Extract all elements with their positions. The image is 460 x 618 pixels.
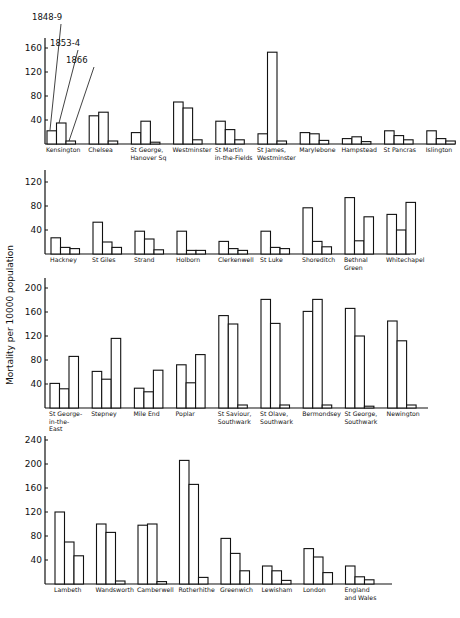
category-label: St Luke [260, 256, 283, 263]
category-label: and Wales [345, 594, 377, 601]
category-label: Southwark [344, 418, 377, 425]
bar-1853-4 [103, 242, 113, 254]
category-label: Mile End [133, 410, 159, 417]
category-label: Southwark [218, 418, 251, 425]
chart-panel-3: 4080120160200St George-in-the-EastStepne… [25, 278, 428, 432]
bar-group: Wandsworth [96, 524, 134, 593]
category-label: East [49, 425, 63, 432]
bar-group: Mile End [133, 370, 163, 417]
category-label: Rotherhithe [179, 586, 215, 593]
y-tick-label: 160 [25, 483, 42, 493]
y-tick-label: 160 [25, 307, 42, 317]
category-label: in-the- [49, 418, 69, 425]
bar-group: London [303, 549, 333, 593]
bar-1853-4 [141, 121, 151, 144]
bar-group: Chelsea [88, 112, 118, 153]
bar-1848-9 [134, 388, 144, 408]
bar-1866 [196, 355, 206, 408]
bar-1853-4 [310, 134, 320, 144]
bar-1848-9 [261, 231, 271, 254]
bar-1848-9 [258, 134, 268, 144]
bar-1866 [70, 249, 80, 254]
bar-1866 [196, 250, 206, 254]
y-tick-label: 160 [25, 43, 42, 53]
bar-1866 [157, 582, 167, 584]
bar-1853-4 [355, 241, 365, 254]
bar-1848-9 [216, 121, 226, 144]
bar-1848-9 [180, 460, 190, 584]
bar-1853-4 [183, 108, 193, 144]
bar-1853-4 [145, 239, 155, 254]
bar-group: Westminster [173, 102, 212, 153]
y-tick-label: 40 [31, 379, 43, 389]
bar-1853-4 [187, 250, 197, 254]
bar-1853-4 [271, 247, 281, 254]
category-label: Camberwell [137, 586, 174, 593]
bar-1853-4 [272, 571, 282, 584]
category-label: Westminster [173, 146, 212, 153]
bar-1866 [280, 405, 290, 408]
bar-1866 [150, 142, 160, 144]
chart-panel-2: 4080120HackneySt GilesStrandHolbornClerk… [25, 170, 425, 271]
bar-1853-4 [355, 336, 365, 408]
legend-label-1866: 1866 [66, 55, 88, 65]
bar-group: St Pancras [384, 131, 416, 153]
bar-1866 [235, 140, 245, 144]
y-tick-label: 80 [31, 531, 43, 541]
category-label: St Giles [92, 256, 116, 263]
category-label: Bethnal [344, 256, 368, 263]
bar-1853-4 [189, 484, 199, 584]
category-label: Hackney [50, 256, 77, 264]
bar-1853-4 [102, 379, 112, 408]
bar-group: St Luke [260, 231, 290, 263]
bar-1866 [407, 405, 417, 408]
bar-1853-4 [106, 532, 116, 584]
bar-1853-4 [436, 139, 446, 144]
bar-1848-9 [261, 299, 271, 408]
category-label: Bermondsey [302, 410, 341, 418]
bar-1853-4 [394, 136, 404, 144]
y-tick-label: 40 [31, 115, 43, 125]
bar-1848-9 [345, 308, 355, 408]
bar-1853-4 [144, 392, 154, 408]
bar-group: Lambeth [54, 512, 84, 593]
bar-group: Stepney [91, 338, 121, 418]
category-label: Stepney [91, 410, 117, 418]
bar-group: St George-in-the-East [49, 356, 82, 432]
bar-1848-9 [55, 512, 65, 584]
bar-group: St Saviour,Southwark [218, 316, 252, 425]
bar-1848-9 [219, 316, 229, 408]
category-label: Hampstead [341, 146, 377, 154]
bar-1848-9 [388, 321, 398, 408]
category-label: St Saviour, [218, 410, 252, 417]
bar-group: Holborn [176, 231, 206, 263]
category-label: Poplar [176, 410, 196, 418]
bar-group: St Martinin-the-Fields [215, 121, 253, 160]
bar-1866 [66, 141, 76, 144]
bar-1866 [199, 577, 209, 584]
y-tick-label: 80 [31, 201, 43, 211]
bar-1866 [282, 580, 292, 584]
bar-group: BethnalGreen [344, 198, 374, 271]
bar-1853-4 [225, 130, 235, 144]
category-label: Kensington [46, 146, 80, 154]
bar-group: Strand [134, 231, 164, 263]
category-label: Lambeth [54, 586, 81, 593]
bar-1848-9 [177, 231, 187, 254]
bar-1866 [361, 142, 371, 144]
bar-1866 [404, 140, 414, 144]
bar-1848-9 [89, 116, 99, 144]
bar-1848-9 [263, 566, 273, 584]
bar-1848-9 [174, 102, 184, 144]
bar-group: Englandand Wales [345, 566, 377, 601]
y-tick-label: 120 [25, 507, 42, 517]
bar-group: Kensington [46, 123, 80, 154]
bar-1853-4 [231, 553, 241, 584]
category-label: Holborn [176, 256, 200, 263]
chart-panels: 4080120160KensingtonChelseaSt George,Han… [25, 38, 455, 601]
bar-1848-9 [300, 133, 310, 144]
bar-1848-9 [92, 371, 102, 408]
bar-1866 [74, 556, 84, 584]
bar-1853-4 [313, 241, 323, 254]
bar-1866 [193, 140, 203, 144]
